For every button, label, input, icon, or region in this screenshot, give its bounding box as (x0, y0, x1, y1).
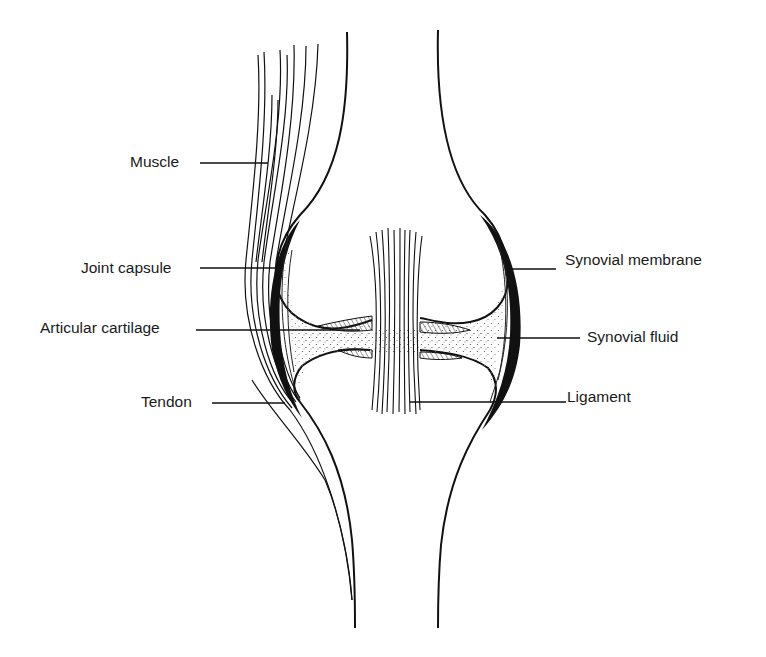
leader-lines (196, 163, 580, 403)
ligament-region (370, 228, 422, 414)
label-synovial-membrane: Synovial membrane (565, 251, 702, 269)
label-muscle: Muscle (130, 153, 179, 171)
label-ligament: Ligament (567, 388, 631, 406)
label-articular-cartilage: Articular cartilage (40, 319, 160, 337)
upper-bone (276, 30, 508, 328)
label-synovial-fluid: Synovial fluid (587, 328, 678, 346)
lower-bone (294, 350, 496, 628)
label-tendon: Tendon (141, 393, 192, 411)
label-joint-capsule: Joint capsule (81, 259, 171, 277)
